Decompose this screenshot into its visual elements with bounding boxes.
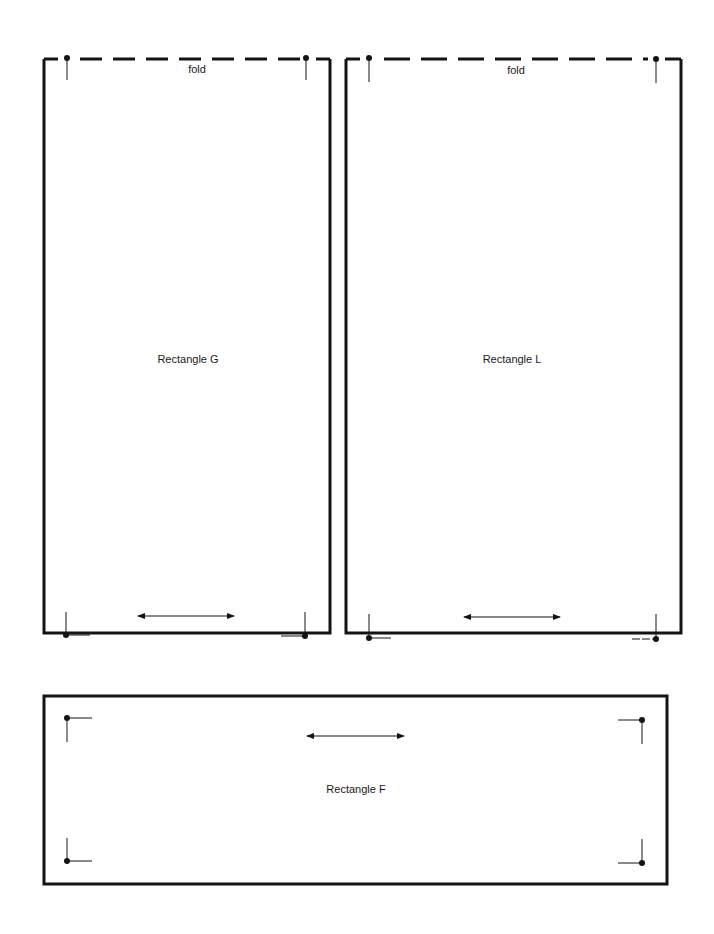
pin-dot xyxy=(639,860,645,866)
rectangle-g-title: Rectangle G xyxy=(157,353,218,365)
rectangle-f-title: Rectangle F xyxy=(326,783,385,795)
pin-dot xyxy=(653,56,659,62)
pin-dot xyxy=(366,635,372,641)
rectangle-g xyxy=(44,55,330,639)
pin-dot xyxy=(366,55,372,61)
pin-dot xyxy=(303,55,309,61)
fold-label-l: fold xyxy=(507,64,525,76)
pin-dot xyxy=(653,636,659,642)
pin-dot xyxy=(639,717,645,723)
rectangle-l-title: Rectangle L xyxy=(483,353,542,365)
rectangle-l xyxy=(346,55,681,642)
pin-dot xyxy=(64,858,70,864)
pin-dot xyxy=(64,55,70,61)
pin-dot xyxy=(302,633,308,639)
pin-dot xyxy=(64,715,70,721)
pin-dot xyxy=(63,632,69,638)
fold-label-g: fold xyxy=(188,63,206,75)
